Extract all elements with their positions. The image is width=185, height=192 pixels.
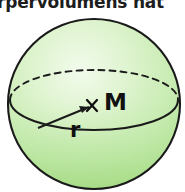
lower-hemisphere-shading <box>0 100 185 192</box>
sphere-figure: rpervolumens hat <box>0 0 185 192</box>
label-radius-r: r <box>70 118 81 142</box>
label-center-m: M <box>104 89 127 115</box>
sphere-illustration: M r <box>0 0 185 192</box>
